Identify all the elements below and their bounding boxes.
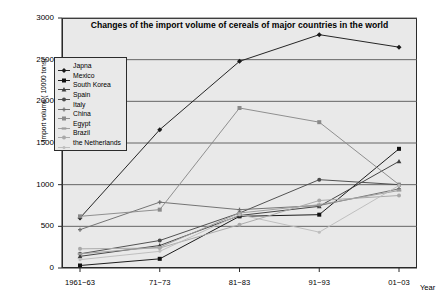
- legend-item-mexico[interactable]: Mexico: [57, 71, 124, 81]
- legend-label: Egypt: [71, 119, 90, 128]
- y-tick-label: 2500: [20, 56, 54, 64]
- legend[interactable]: JapnaMexicoSouth KoreaSpainItalyChinaEgy…: [54, 57, 127, 151]
- legend-item-south-korea[interactable]: South Korea: [57, 80, 124, 90]
- y-tick-label: 0: [20, 264, 54, 272]
- series-line: [78, 147, 401, 268]
- legend-label: Japna: [71, 61, 92, 70]
- y-tick-label: 1500: [20, 139, 54, 147]
- legend-item-the-netherlands[interactable]: the Netherlands: [57, 138, 124, 148]
- legend-item-egypt[interactable]: Egypt: [57, 119, 124, 129]
- legend-marker-icon: [57, 109, 71, 118]
- legend-item-italy[interactable]: Italy: [57, 99, 124, 109]
- legend-marker-icon: [57, 128, 71, 137]
- legend-label: China: [71, 109, 91, 118]
- series-line: [78, 194, 401, 251]
- legend-marker-icon: [57, 61, 71, 70]
- legend-label: South Korea: [71, 80, 111, 89]
- y-tick-label: 500: [20, 222, 54, 230]
- legend-marker-icon: [57, 71, 71, 80]
- chart-root: Changes of the import volume of cereals …: [0, 0, 443, 302]
- legend-label: Brazil: [71, 128, 90, 137]
- legend-marker-icon: [57, 90, 71, 99]
- x-tick-label: 71−73: [130, 279, 190, 287]
- legend-label: Mexico: [71, 71, 95, 80]
- x-tick-label: 01−03: [369, 279, 429, 287]
- x-tick-label: 91−93: [289, 279, 349, 287]
- legend-item-brazil[interactable]: Brazil: [57, 128, 124, 138]
- legend-item-china[interactable]: China: [57, 109, 124, 119]
- x-tick-label: 81−83: [210, 279, 270, 287]
- legend-label: Spain: [71, 90, 90, 99]
- series-line: [78, 189, 402, 255]
- legend-marker-icon: [57, 138, 71, 147]
- y-tick-label: 3000: [20, 14, 54, 22]
- legend-marker-icon: [57, 119, 71, 128]
- x-tick-label: 1961−63: [50, 279, 110, 287]
- legend-label: the Netherlands: [71, 138, 121, 147]
- legend-item-japna[interactable]: Japna: [57, 61, 124, 71]
- legend-label: Italy: [71, 100, 85, 109]
- legend-item-spain[interactable]: Spain: [57, 90, 124, 100]
- y-tick-label: 1000: [20, 181, 54, 189]
- legend-rows: JapnaMexicoSouth KoreaSpainItalyChinaEgy…: [57, 61, 124, 147]
- y-tick-label: 2000: [20, 97, 54, 105]
- legend-marker-icon: [57, 100, 71, 109]
- legend-marker-icon: [57, 80, 71, 89]
